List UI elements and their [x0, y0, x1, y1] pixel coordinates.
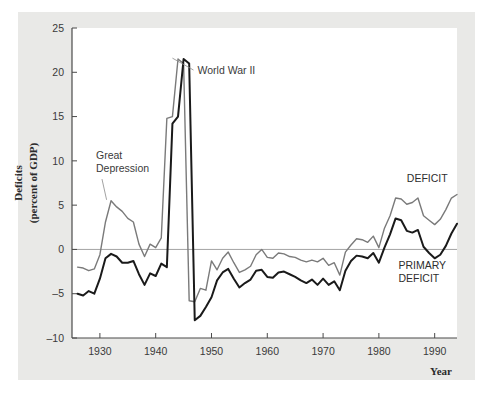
y-axis-title-line2: (percent of GDP)	[27, 142, 40, 223]
y-tick-label: 25	[52, 22, 64, 34]
series-label-deficit: DEFICIT	[407, 172, 448, 184]
x-tick-label: 1980	[367, 345, 391, 357]
x-tick-label: 1990	[423, 345, 447, 357]
annotation-great-depression-line1: Great	[96, 149, 122, 161]
y-tick-label: –10	[46, 332, 64, 344]
x-axis-title: Year	[430, 365, 452, 377]
x-tick-label: 1950	[200, 345, 224, 357]
annotation-world-war-ii: World War II	[198, 64, 256, 76]
x-tick-label: 1930	[88, 345, 112, 357]
y-axis-title: Deficits (percent of GDP)	[12, 142, 40, 223]
x-tick-label: 1940	[144, 345, 168, 357]
y-tick-label: 15	[52, 110, 64, 122]
series-label-primary-deficit-line2: DEFICIT	[398, 272, 439, 284]
y-tick-label: 0	[58, 243, 64, 255]
y-tick-label: 5	[58, 199, 64, 211]
y-tick-label: 10	[52, 155, 64, 167]
series-label-primary-deficit-line1: PRIMARY	[398, 259, 446, 271]
y-tick-label: 20	[52, 66, 64, 78]
annotation-great-depression-line2: Depression	[96, 162, 149, 174]
y-tick-label: –5	[52, 287, 64, 299]
x-tick-label: 1960	[256, 345, 280, 357]
deficits-line-chart: –10–50510152025 193019401950196019701980…	[0, 0, 493, 394]
plot-panel	[72, 28, 457, 338]
x-tick-label: 1970	[311, 345, 335, 357]
y-axis-title-line1: Deficits	[12, 165, 24, 201]
